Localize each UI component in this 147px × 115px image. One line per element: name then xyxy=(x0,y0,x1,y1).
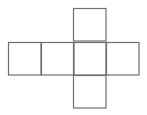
cube-face-right xyxy=(107,43,140,76)
cube-face-bottom xyxy=(74,76,107,109)
cube-face-top xyxy=(74,9,107,42)
cube-face-left-1 xyxy=(9,43,42,76)
cube-face-center xyxy=(74,43,107,76)
cube-net-diagram xyxy=(0,0,147,115)
cube-face-left-2 xyxy=(42,43,75,76)
